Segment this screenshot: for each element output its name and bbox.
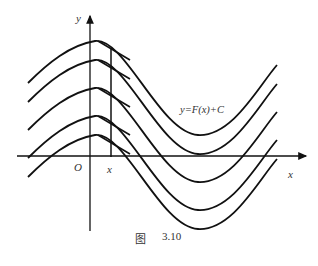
- tangent-mark: [98, 41, 130, 60]
- caption-number: 3.10: [162, 230, 181, 242]
- tangent-mark: [98, 88, 130, 107]
- integral-curve: [28, 41, 277, 135]
- caption-prefix: 图: [135, 230, 146, 246]
- integral-curve: [28, 116, 277, 210]
- curve-label: y=F(x)+C: [180, 104, 224, 115]
- figure-canvas: [0, 0, 318, 266]
- y-axis-label: y: [76, 12, 81, 24]
- integral-curve: [28, 60, 277, 154]
- x-axis-label: x: [288, 168, 293, 180]
- integral-curve: [28, 135, 277, 229]
- tangent-mark: [98, 116, 130, 135]
- point-x-label: x: [107, 163, 112, 175]
- integral-curve: [28, 88, 277, 182]
- origin-label: O: [74, 161, 82, 173]
- integral-curves: [28, 41, 277, 229]
